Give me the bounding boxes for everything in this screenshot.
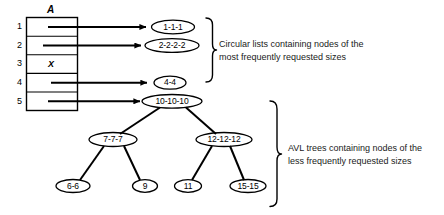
annotation-avl-trees: AVL trees containing nodes of the less f… — [288, 142, 422, 167]
circular-list-label-2: 2-2-2-2 — [142, 41, 202, 50]
tree-node-label-15: 15-15 — [228, 182, 268, 191]
array-row-index-1: 1 — [10, 22, 22, 31]
annotation-circular-lists-line2: most frequently requested sizes — [219, 51, 364, 64]
circular-list-label-1: 1-1-1 — [148, 23, 198, 32]
tree-node-label-6: 6-6 — [53, 182, 93, 191]
tree-node-label-9: 9 — [130, 182, 160, 191]
circular-list-label-4: 4-4 — [150, 78, 190, 87]
brace-avl-trees — [270, 101, 282, 207]
tree-node-label-11: 11 — [173, 182, 203, 191]
annotation-avl-trees-line2: less frequently requested sizes — [288, 155, 422, 168]
array-cell-value-3: X — [48, 60, 54, 69]
tree-node-label-12: 12-12-12 — [192, 135, 256, 144]
array-row-index-5: 5 — [10, 97, 22, 106]
brace-circular-lists — [206, 18, 217, 82]
annotation-circular-lists-line1: Circular lists containing nodes of the — [219, 38, 364, 51]
annotation-avl-trees-line1: AVL trees containing nodes of the — [288, 142, 422, 155]
annotation-circular-lists: Circular lists containing nodes of the m… — [219, 38, 364, 63]
tree-node-label-7: 7-7-7 — [85, 135, 141, 144]
array-name-label: A — [47, 5, 54, 15]
diagram-canvas: A 1 2 3 4 5 X 1-1-1 2-2-2-2 4-4 10-10-10… — [0, 0, 444, 215]
tree-node-label-root: 10-10-10 — [139, 97, 205, 106]
array-row-index-3: 3 — [10, 59, 22, 68]
array-row-index-2: 2 — [10, 41, 22, 50]
array-row-index-4: 4 — [10, 78, 22, 87]
